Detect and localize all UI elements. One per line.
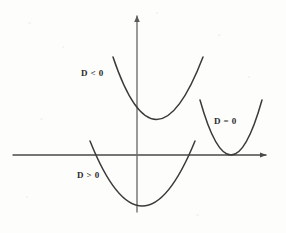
figure-canvas xyxy=(0,0,286,233)
parabola-d-positive xyxy=(90,141,195,206)
parabola-discriminant-figure: D < 0 D > 0 D = 0 xyxy=(0,0,286,233)
parabola-d-zero xyxy=(200,100,262,155)
parabola-d-negative xyxy=(113,57,203,120)
label-d-positive: D > 0 xyxy=(77,171,100,180)
label-d-negative: D < 0 xyxy=(81,69,104,78)
label-d-zero: D = 0 xyxy=(214,117,237,126)
